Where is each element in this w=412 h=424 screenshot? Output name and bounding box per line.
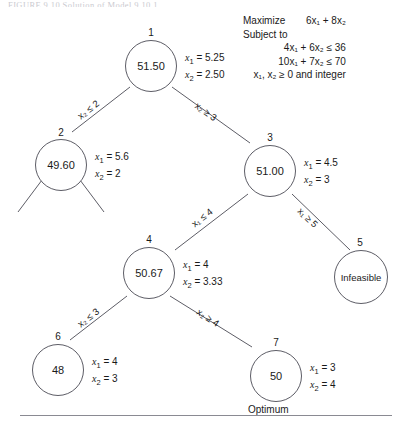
edge-label-3-4: x₁ ≤ 4: [189, 206, 214, 229]
node-4-id: 4: [139, 234, 159, 245]
maximize-label: Maximize: [243, 14, 306, 28]
objective-expression: 6x₁ + 8x₂: [306, 14, 346, 28]
node-5-value: Infeasible: [341, 272, 382, 283]
model-formulation: Maximize6x₁ + 8x₂ Subject to 4x₁ + 6x₂ ≤…: [243, 14, 346, 82]
node-4-x2-row: x2 = 3.33: [183, 275, 223, 292]
node-1[interactable]: 51.50: [125, 40, 177, 92]
node-7-values: x1 = 3 x2 = 4: [310, 361, 336, 395]
node-4-values: x1 = 4 x2 = 3.33: [183, 258, 223, 292]
node-5[interactable]: Infeasible: [334, 250, 388, 304]
node-6-x2: 3: [112, 373, 118, 384]
node-7-value: 50: [270, 370, 282, 382]
node-2-value: 49.60: [47, 159, 75, 171]
node-4-x2: 3.33: [203, 276, 222, 287]
node-4-x1: 4: [203, 259, 209, 270]
node-1-id: 1: [141, 27, 161, 38]
node-5-id: 5: [350, 237, 370, 248]
node-7-id: 7: [266, 337, 286, 348]
node-7-x1-row: x1 = 3: [310, 361, 336, 378]
node-1-values: x1 = 5.25 x2 = 2.50: [185, 51, 225, 85]
node-3-values: x1 = 4.5 x2 = 3: [304, 156, 338, 190]
branch-and-bound-figure: FIGURE 9.10 Solution of Model 9.10.1 Max…: [0, 0, 412, 424]
node-6-value: 48: [52, 364, 64, 376]
edge-label-4-6: x₂ ≤ 3: [75, 306, 101, 330]
node-3-id: 3: [260, 132, 280, 143]
node-2-x1: 5.6: [115, 151, 129, 162]
node-3-x1: 4.5: [324, 157, 338, 168]
constraint-1: 4x₁ + 6x₂ ≤ 36: [243, 41, 346, 55]
figure-caption-clipped: FIGURE 9.10 Solution of Model 9.10.1: [8, 0, 338, 7]
node-7[interactable]: 50: [250, 350, 302, 402]
node-3-x1-row: x1 = 4.5: [304, 156, 338, 173]
node-2-x2-row: x2 = 2: [95, 167, 129, 184]
node-1-value: 51.50: [137, 60, 165, 72]
node-6-x2-row: x2 = 3: [92, 372, 118, 389]
edge-2-stub-left: [18, 180, 42, 212]
node-1-x1-row: x1 = 5.25: [185, 51, 225, 68]
node-7-x1: 3: [330, 362, 336, 373]
node-1-x2: 2.50: [205, 69, 224, 80]
node-2-x1-row: x1 = 5.6: [95, 150, 129, 167]
edge-label-1-2: x₂ ≤ 2: [75, 98, 101, 122]
node-4-x1-row: x1 = 4: [183, 258, 223, 275]
node-6-x1: 4: [112, 356, 118, 367]
node-2-id: 2: [51, 127, 71, 138]
edge-label-3-5: x₁ ≥ 5: [296, 205, 321, 229]
edge-2-stub-right: [80, 180, 104, 212]
node-1-x1: 5.25: [205, 52, 224, 63]
node-3-x2-row: x2 = 3: [304, 173, 338, 190]
edge-3-5: [292, 194, 350, 250]
node-4[interactable]: 50.67: [123, 247, 175, 299]
node-1-x2-row: x2 = 2.50: [185, 68, 225, 85]
node-2-values: x1 = 5.6 x2 = 2: [95, 150, 129, 184]
node-6-id: 6: [48, 331, 68, 342]
node-7-x2: 4: [330, 379, 336, 390]
edge-label-4-7: x₂ ≥ 4: [195, 306, 221, 328]
figure-bottom-rule: [20, 415, 392, 416]
constraint-2: 10x₁ + 7x₂ ≤ 70: [243, 55, 346, 69]
subject-to-row: Subject to: [243, 28, 346, 42]
objective-row: Maximize6x₁ + 8x₂: [243, 14, 346, 28]
node-3-value: 51.00: [256, 165, 284, 177]
node-4-value: 50.67: [135, 267, 163, 279]
node-2-x2: 2: [115, 168, 121, 179]
constraint-3: x₁, x₂ ≥ 0 and integer: [243, 68, 346, 82]
subject-to-label: Subject to: [243, 28, 306, 42]
edge-label-1-3: x₂ ≥ 3: [193, 100, 219, 123]
node-3[interactable]: 51.00: [244, 145, 296, 197]
constraint-list: 4x₁ + 6x₂ ≤ 36 10x₁ + 7x₂ ≤ 70 x₁, x₂ ≥ …: [243, 41, 346, 82]
node-7-x2-row: x2 = 4: [310, 378, 336, 395]
optimum-annotation: Optimum: [248, 404, 289, 415]
edge-3-4: [175, 194, 248, 250]
node-3-x2: 3: [324, 174, 330, 185]
node-6[interactable]: 48: [32, 344, 84, 396]
node-6-values: x1 = 4 x2 = 3: [92, 355, 118, 389]
node-6-x1-row: x1 = 4: [92, 355, 118, 372]
node-2[interactable]: 49.60: [35, 139, 87, 191]
